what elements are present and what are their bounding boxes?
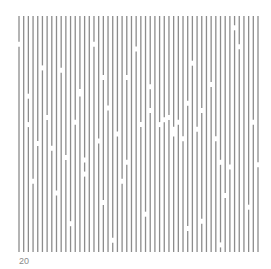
line-stimulus [0, 0, 271, 269]
trial-number-label: 20 [19, 256, 29, 266]
